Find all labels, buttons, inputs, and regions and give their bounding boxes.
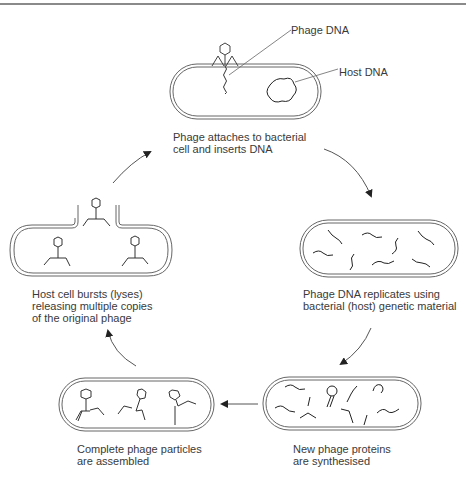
cell-synthesis (263, 377, 421, 430)
arrow-replicate-to-synthesis (341, 328, 371, 364)
arrow-lysis-to-attach (113, 152, 150, 183)
cell-lysis (10, 198, 172, 276)
dna-fragments-icon (313, 230, 434, 270)
assembled-phages-icon (76, 389, 196, 425)
released-phages-icon (44, 198, 148, 266)
phage-icon (212, 43, 238, 94)
host-dna-icon (267, 78, 296, 102)
caption-replicate: Phage DNA replicates usingbacterial (hos… (303, 288, 456, 312)
caption-attach: Phage attaches to bacterialcell and inse… (173, 131, 306, 155)
callout-host-dna: Host DNA (339, 66, 388, 78)
callout-phage-dna: Phage DNA (291, 24, 349, 36)
cell-attach (170, 30, 338, 119)
caption-lysis: Host cell bursts (lyses)releasing multip… (32, 288, 152, 324)
caption-synthesis: New phage proteinsare synthesised (293, 443, 391, 467)
lytic-cycle-diagram (0, 0, 473, 480)
phage-parts-icon (275, 385, 399, 425)
caption-assembly: Complete phage particlesare assembled (77, 443, 202, 467)
cell-assembly (59, 378, 214, 431)
arrow-attach-to-replicate (324, 149, 371, 196)
cell-replicate (300, 220, 458, 277)
arrow-assembly-to-lysis (108, 331, 136, 366)
